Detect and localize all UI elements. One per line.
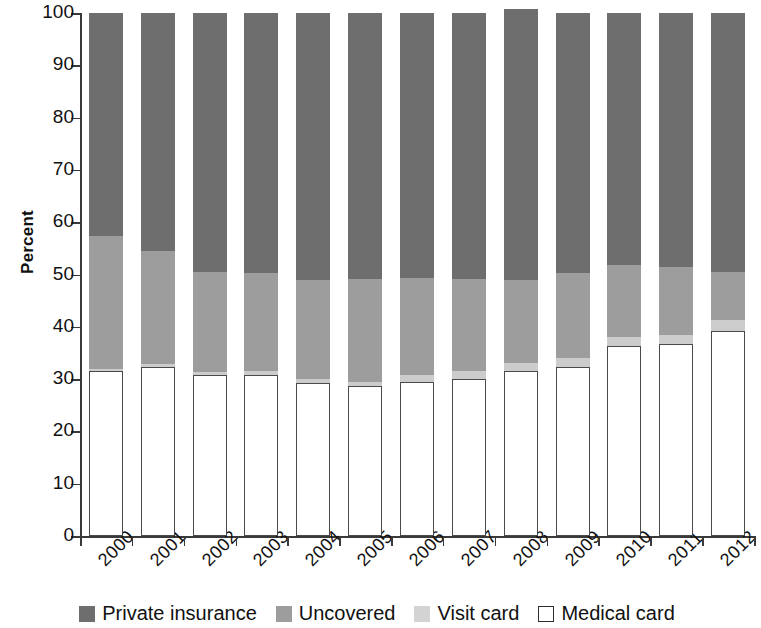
y-tick-label: 90 bbox=[53, 53, 74, 75]
bar-segment-private-insurance-2001[interactable] bbox=[141, 13, 175, 251]
bar-segment-uncovered-2008[interactable] bbox=[504, 280, 538, 363]
bar-segment-private-insurance-2004[interactable] bbox=[296, 13, 330, 280]
bar-segment-private-insurance-2002[interactable] bbox=[193, 13, 227, 272]
bar-segment-private-insurance-2009[interactable] bbox=[556, 13, 590, 273]
bar-segment-private-insurance-2010[interactable] bbox=[607, 13, 641, 265]
x-tick-mark-2004 bbox=[287, 536, 289, 546]
x-tick-mark-2005 bbox=[339, 536, 341, 546]
y-axis-line bbox=[80, 13, 82, 536]
bar-segment-medical-card-2008[interactable] bbox=[504, 371, 538, 536]
x-tick-mark-2001 bbox=[132, 536, 134, 546]
legend-label-medical-card: Medical card bbox=[561, 602, 674, 625]
bar-segment-medical-card-2004[interactable] bbox=[296, 383, 330, 536]
medical-card-swatch bbox=[538, 606, 554, 622]
bar-segment-medical-card-2011[interactable] bbox=[659, 344, 693, 536]
y-tick-label: 70 bbox=[53, 158, 74, 180]
bar-segment-visit-card-2006[interactable] bbox=[400, 375, 434, 382]
bar-segment-visit-card-2009[interactable] bbox=[556, 358, 590, 367]
bar-segment-medical-card-2000[interactable] bbox=[89, 371, 123, 536]
uncovered-swatch bbox=[276, 606, 292, 622]
y-tick-label: 60 bbox=[53, 210, 74, 232]
bar-segment-uncovered-2002[interactable] bbox=[193, 272, 227, 371]
legend-label-uncovered: Uncovered bbox=[299, 602, 396, 625]
bar-segment-medical-card-2006[interactable] bbox=[400, 382, 434, 536]
x-tick-mark-2003 bbox=[236, 536, 238, 546]
y-tick-label: 30 bbox=[53, 367, 74, 389]
legend-item-uncovered[interactable]: Uncovered bbox=[276, 602, 396, 625]
bar-segment-visit-card-2002[interactable] bbox=[193, 372, 227, 375]
x-tick-mark-2000 bbox=[80, 536, 82, 546]
bar-segment-medical-card-2010[interactable] bbox=[607, 346, 641, 536]
y-tick-label: 20 bbox=[53, 419, 74, 441]
legend-label-private-insurance: Private insurance bbox=[102, 602, 257, 625]
legend-item-private-insurance[interactable]: Private insurance bbox=[79, 602, 257, 625]
bar-segment-medical-card-2007[interactable] bbox=[452, 379, 486, 536]
bar-segment-uncovered-2006[interactable] bbox=[400, 278, 434, 375]
bar-segment-medical-card-2009[interactable] bbox=[556, 367, 590, 536]
bar-segment-visit-card-2011[interactable] bbox=[659, 335, 693, 344]
x-tick-mark-2012 bbox=[702, 536, 704, 546]
bar-segment-uncovered-2005[interactable] bbox=[348, 279, 382, 382]
bar-segment-visit-card-2005[interactable] bbox=[348, 382, 382, 387]
bar-segment-medical-card-2005[interactable] bbox=[348, 386, 382, 536]
y-tick-label: 0 bbox=[63, 524, 74, 546]
chart-legend: Private insurance Uncovered Visit card M… bbox=[0, 602, 754, 625]
bar-segment-uncovered-2010[interactable] bbox=[607, 265, 641, 338]
x-tick-mark-2006 bbox=[391, 536, 393, 546]
y-tick-label: 80 bbox=[53, 106, 74, 128]
legend-item-visit-card[interactable]: Visit card bbox=[414, 602, 519, 625]
bar-segment-private-insurance-2012[interactable] bbox=[711, 13, 745, 272]
x-tick-mark-2007 bbox=[443, 536, 445, 546]
x-tick-mark-end bbox=[754, 536, 756, 546]
y-tick-label: 100 bbox=[42, 1, 74, 23]
bar-segment-visit-card-2010[interactable] bbox=[607, 337, 641, 345]
bar-segment-private-insurance-2007[interactable] bbox=[452, 13, 486, 279]
bar-segment-uncovered-2004[interactable] bbox=[296, 280, 330, 378]
plot-area: 0102030405060708090100 20002001200220032… bbox=[80, 13, 754, 536]
x-tick-mark-2009 bbox=[547, 536, 549, 546]
bar-segment-private-insurance-2006[interactable] bbox=[400, 13, 434, 278]
bar-segment-private-insurance-2011[interactable] bbox=[659, 13, 693, 267]
bar-segment-visit-card-2004[interactable] bbox=[296, 379, 330, 383]
y-axis-title: Percent bbox=[18, 182, 38, 302]
bar-segment-visit-card-2008[interactable] bbox=[504, 363, 538, 371]
bar-segment-uncovered-2000[interactable] bbox=[89, 236, 123, 368]
bar-segment-uncovered-2001[interactable] bbox=[141, 251, 175, 364]
bar-segment-uncovered-2003[interactable] bbox=[244, 273, 278, 371]
bar-segment-visit-card-2001[interactable] bbox=[141, 364, 175, 367]
y-tick-label: 50 bbox=[53, 263, 74, 285]
bar-segment-visit-card-2003[interactable] bbox=[244, 371, 278, 375]
bar-segment-uncovered-2007[interactable] bbox=[452, 279, 486, 371]
bar-segment-visit-card-2012[interactable] bbox=[711, 320, 745, 331]
bar-segment-medical-card-2002[interactable] bbox=[193, 375, 227, 536]
bar-segment-private-insurance-2003[interactable] bbox=[244, 13, 278, 273]
bar-segment-medical-card-2003[interactable] bbox=[244, 375, 278, 536]
bar-segment-visit-card-2000[interactable] bbox=[89, 369, 123, 372]
bar-segment-uncovered-2012[interactable] bbox=[711, 272, 745, 320]
x-tick-mark-2008 bbox=[495, 536, 497, 546]
y-tick-label: 10 bbox=[53, 472, 74, 494]
bar-segment-private-insurance-2008[interactable] bbox=[504, 9, 538, 280]
bar-segment-visit-card-2007[interactable] bbox=[452, 371, 486, 379]
bar-segment-medical-card-2012[interactable] bbox=[711, 331, 745, 536]
bar-segment-medical-card-2001[interactable] bbox=[141, 367, 175, 536]
x-tick-mark-2011 bbox=[650, 536, 652, 546]
legend-item-medical-card[interactable]: Medical card bbox=[538, 602, 674, 625]
visit-card-swatch bbox=[414, 606, 430, 622]
x-tick-mark-2002 bbox=[184, 536, 186, 546]
x-tick-mark-2010 bbox=[598, 536, 600, 546]
bar-segment-private-insurance-2000[interactable] bbox=[89, 13, 123, 236]
bar-segment-uncovered-2009[interactable] bbox=[556, 273, 590, 358]
private-insurance-swatch bbox=[79, 606, 95, 622]
bar-segment-uncovered-2011[interactable] bbox=[659, 267, 693, 335]
legend-label-visit-card: Visit card bbox=[437, 602, 519, 625]
y-tick-label: 40 bbox=[53, 315, 74, 337]
bar-segment-private-insurance-2005[interactable] bbox=[348, 13, 382, 279]
